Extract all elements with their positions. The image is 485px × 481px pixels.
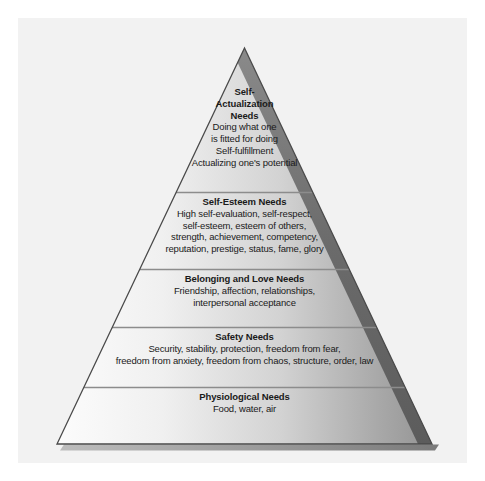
tier-physiological: Physiological Needs Food, water, air [44, 391, 445, 415]
tier-self-actualization-description: Doing what one is fitted for doing Self-… [94, 121, 395, 168]
pyramid-tier-labels: Self- Actualization Needs Doing what one… [0, 0, 485, 481]
tier-safety: Safety Needs Security, stability, protec… [44, 331, 445, 366]
tier-safety-description: Security, stability, protection, freedom… [44, 343, 445, 367]
tier-self-esteem: Self-Esteem Needs High self-evaluation, … [74, 196, 415, 255]
tier-safety-title: Safety Needs [44, 331, 445, 343]
tier-belonging-and-love-title: Belonging and Love Needs [74, 273, 415, 285]
tier-belonging-and-love: Belonging and Love Needs Friendship, aff… [74, 273, 415, 308]
tier-self-esteem-description: High self-evaluation, self-respect, self… [74, 208, 415, 255]
tier-self-actualization: Self- Actualization Needs Doing what one… [94, 86, 395, 168]
maslow-pyramid-figure: Self- Actualization Needs Doing what one… [0, 0, 485, 481]
tier-physiological-description: Food, water, air [44, 403, 445, 415]
tier-self-esteem-title: Self-Esteem Needs [74, 196, 415, 208]
tier-belonging-and-love-description: Friendship, affection, relationships, in… [74, 285, 415, 309]
tier-self-actualization-title: Self- Actualization Needs [94, 86, 395, 121]
tier-physiological-title: Physiological Needs [44, 391, 445, 403]
